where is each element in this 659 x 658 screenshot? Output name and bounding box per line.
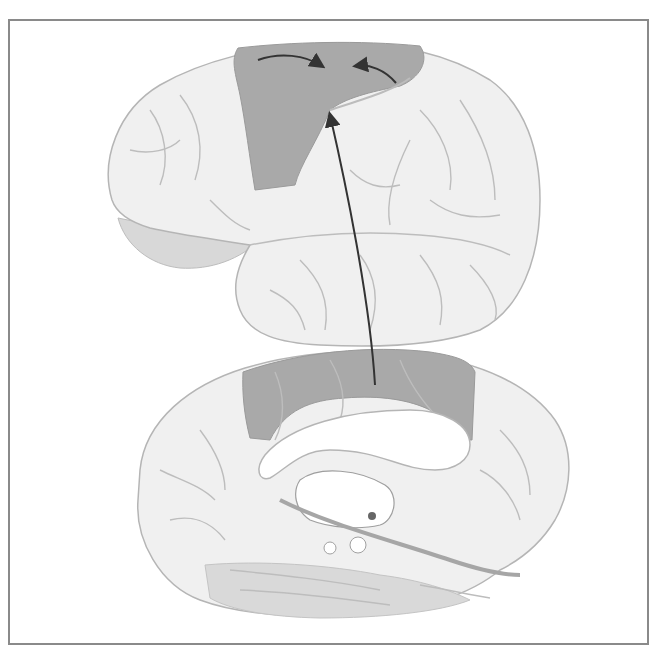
brain-illustration	[0, 0, 659, 658]
medial-brain-view	[138, 349, 569, 618]
lateral-brain-view	[108, 42, 540, 346]
